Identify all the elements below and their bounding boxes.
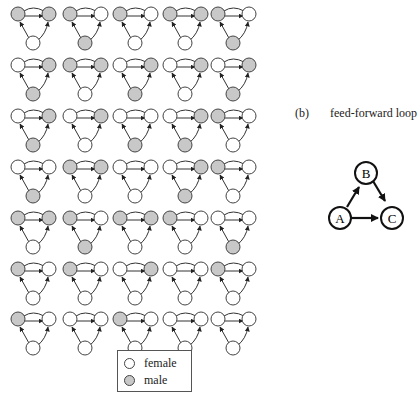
- svg-text:A: A: [335, 211, 345, 226]
- motif-triad: [160, 157, 210, 203]
- motif-triad: [110, 157, 160, 203]
- panel-tag: (b): [295, 106, 309, 121]
- motif-triad: [8, 259, 58, 305]
- node-a: A: [329, 207, 351, 229]
- motif-triad: [110, 208, 160, 254]
- motif-triad: [208, 309, 258, 355]
- motif-triad: [110, 309, 160, 355]
- female-swatch-icon: [124, 358, 135, 369]
- motif-triad: [60, 55, 110, 101]
- edge-a-b: [347, 187, 359, 207]
- motif-triad: [208, 259, 258, 305]
- male-swatch-icon: [124, 375, 135, 386]
- svg-text:C: C: [388, 211, 397, 226]
- motif-triad: [208, 55, 258, 101]
- motif-triad: [8, 157, 58, 203]
- svg-text:B: B: [362, 166, 371, 181]
- motif-triad: [60, 259, 110, 305]
- motif-triad: [160, 55, 210, 101]
- motif-triad: [160, 4, 210, 50]
- motif-triad: [160, 309, 210, 355]
- feed-forward-loop-diagram: A B C: [290, 138, 407, 238]
- motif-triad: [208, 208, 258, 254]
- legend-item-female: female: [124, 355, 177, 371]
- node-b: B: [355, 162, 377, 184]
- panel-title: feed-forward loop: [330, 106, 417, 121]
- motif-triad: [60, 309, 110, 355]
- panel-b: (b) feed-forward loop A B C: [290, 98, 407, 248]
- motif-triad: [110, 55, 160, 101]
- motif-triad: [60, 208, 110, 254]
- motif-triad: [208, 106, 258, 152]
- edge-b-c: [373, 181, 385, 201]
- motif-triad: [8, 55, 58, 101]
- legend-label: female: [144, 356, 177, 371]
- node-c: C: [381, 207, 403, 229]
- motif-grid: [0, 0, 270, 350]
- motif-triad: [160, 208, 210, 254]
- legend: female male: [117, 350, 192, 392]
- motif-triad: [160, 106, 210, 152]
- motif-triad: [8, 106, 58, 152]
- motif-triad: [208, 157, 258, 203]
- legend-label: male: [144, 373, 167, 388]
- motif-triad: [60, 157, 110, 203]
- motif-triad: [60, 4, 110, 50]
- motif-triad: [60, 106, 110, 152]
- motif-triad: [110, 4, 160, 50]
- motif-triad: [160, 259, 210, 305]
- motif-triad: [8, 208, 58, 254]
- motif-triad: [8, 309, 58, 355]
- legend-item-male: male: [124, 372, 167, 388]
- motif-triad: [110, 259, 160, 305]
- motif-triad: [8, 4, 58, 50]
- motif-triad: [110, 106, 160, 152]
- motif-triad: [208, 4, 258, 50]
